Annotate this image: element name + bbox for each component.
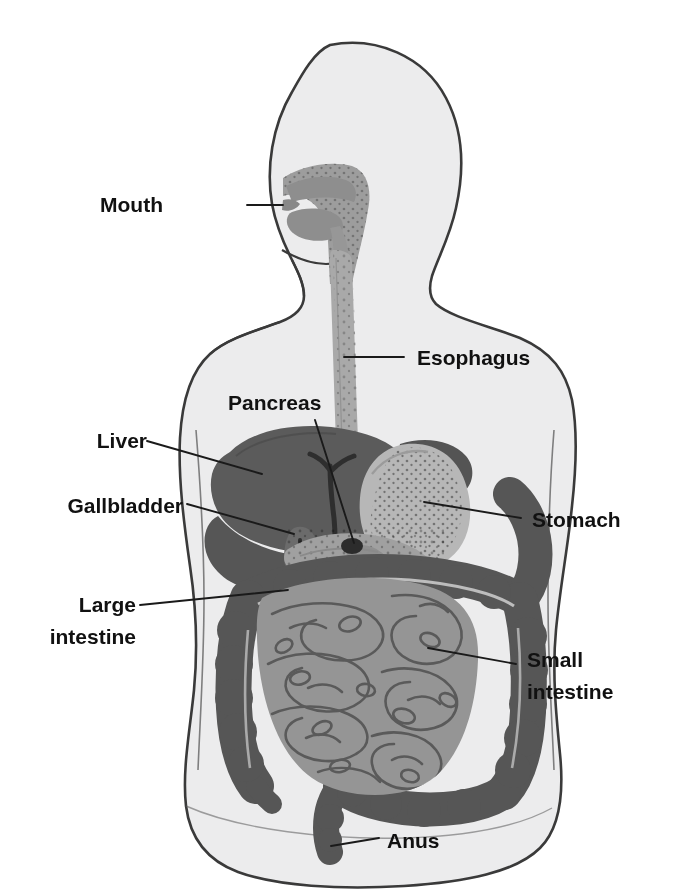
label-small-intestine-line2: intestine bbox=[527, 680, 613, 703]
label-stomach: Stomach bbox=[532, 508, 621, 531]
label-large-intestine-line1: Large bbox=[79, 593, 136, 616]
label-small-intestine-line1: Small bbox=[527, 648, 583, 671]
label-liver: Liver bbox=[97, 429, 147, 452]
label-large-intestine-line2: intestine bbox=[50, 625, 136, 648]
label-esophagus: Esophagus bbox=[417, 346, 530, 369]
label-anus: Anus bbox=[387, 829, 440, 852]
label-pancreas: Pancreas bbox=[228, 391, 321, 414]
digestive-system-diagram: Mouth Pancreas Liver Gallbladder Esophag… bbox=[0, 0, 674, 894]
label-gallbladder: Gallbladder bbox=[67, 494, 183, 517]
anatomy-illustration: Mouth Pancreas Liver Gallbladder Esophag… bbox=[0, 0, 674, 894]
label-mouth: Mouth bbox=[100, 193, 163, 216]
